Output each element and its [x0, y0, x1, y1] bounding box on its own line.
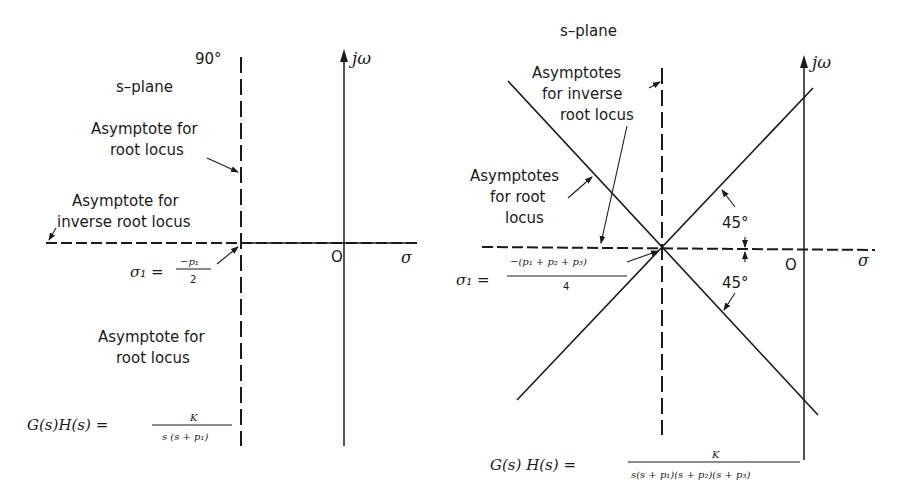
arrow-up-icon [800, 55, 808, 68]
right-plane-label: s–plane [560, 22, 617, 40]
right-asymptotes-root-line1: Asymptotes [470, 167, 559, 185]
left-asymptote-root-top-line2: root locus [110, 141, 184, 159]
left-sigma-label: σ [401, 248, 413, 267]
right-asymptotes-root-line2: for root [490, 188, 546, 206]
left-angle-label: 90° [195, 50, 222, 68]
left-transfer-function-denominator: s (s + p₁) [162, 431, 208, 442]
left-asymptote-inverse-line1: Asymptote for [72, 192, 179, 210]
left-asymptote-inverse-line2: inverse root locus [57, 213, 191, 231]
right-asymptotes-inverse-line1: Asymptotes [532, 64, 621, 82]
right-jw-label: jω [808, 52, 831, 72]
right-sigma-label: σ [858, 251, 870, 270]
left-sigma1-lhs: σ₁ = [130, 263, 164, 281]
pointer-arrow-icon [568, 177, 592, 198]
right-transfer-function-denominator: s(s + p₁)(s + p₂)(s + p₃) [631, 469, 750, 480]
left-plane-label: s–plane [116, 78, 173, 96]
right-sigma1-denominator: 4 [563, 281, 569, 292]
left-sigma1-numerator: −p₁ [180, 256, 199, 267]
left-jw-label: jω [348, 48, 371, 68]
left-origin-label: O [331, 248, 343, 266]
left-transfer-function-numerator: K [189, 412, 198, 423]
left-asymptote-root-top-line1: Asymptote for [91, 120, 198, 138]
right-origin-label: O [785, 256, 797, 274]
right-asymptotes-root-line3: locus [505, 209, 544, 227]
right-angle-lower-label: 45° [722, 274, 749, 292]
pointer-arrow-icon [217, 247, 238, 264]
right-transfer-function-lhs: G(s) H(s) = [490, 456, 576, 474]
arrow-up-icon [340, 49, 348, 62]
pointer-arrow-icon [649, 82, 660, 88]
left-asymptote-root-bottom-line1: Asymptote for [98, 328, 205, 346]
pointer-arrow-icon [49, 228, 56, 240]
left-asymptote-root-bottom-line2: root locus [116, 349, 190, 367]
right-diagram: s–plane jω Asymptotes for inverse root l… [456, 22, 875, 480]
right-asymptotes-inverse-line2: for inverse [542, 85, 622, 103]
right-asymptote-sw-ne [517, 88, 813, 400]
left-diagram: 90° jω s–plane Asymptote for root locus … [27, 48, 417, 446]
right-transfer-function-numerator: K [711, 449, 720, 460]
right-asymptotes-inverse-line3: root locus [560, 106, 634, 124]
right-sigma-axis-asymptote [482, 247, 875, 250]
pointer-arrow-icon [724, 293, 735, 310]
right-angle-upper-label: 45° [722, 214, 749, 232]
pointer-arrow-icon [207, 158, 238, 172]
right-sigma1-numerator: −(p₁ + p₂ + p₃) [510, 256, 587, 267]
root-locus-asymptotes-figure: 90° jω s–plane Asymptote for root locus … [0, 0, 906, 503]
pointer-arrow-icon [722, 190, 735, 207]
right-sigma1-lhs: σ₁ = [456, 271, 490, 289]
left-sigma1-denominator: 2 [190, 274, 196, 285]
left-transfer-function-lhs: G(s)H(s) = [27, 416, 108, 434]
